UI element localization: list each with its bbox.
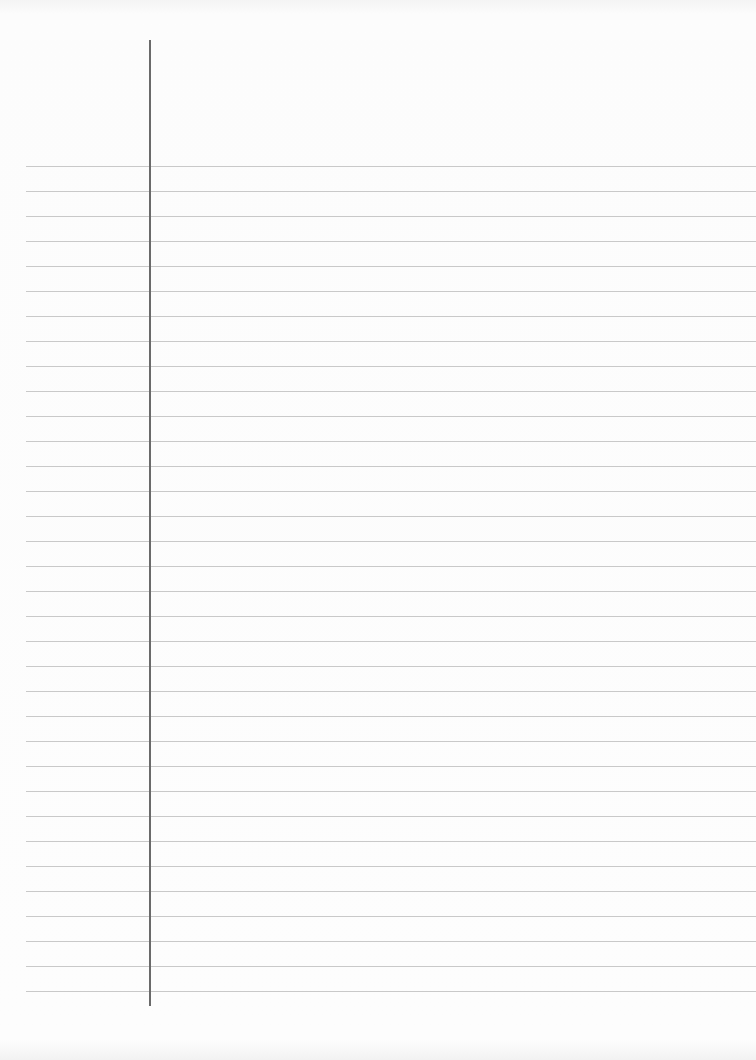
ruled-line [26, 841, 756, 842]
ruled-line [26, 616, 756, 617]
ruled-line [26, 466, 756, 467]
ruled-line [26, 791, 756, 792]
ruled-line [26, 941, 756, 942]
margin-line [149, 40, 151, 1006]
ruled-line [26, 916, 756, 917]
ruled-line [26, 416, 756, 417]
ruled-line [26, 266, 756, 267]
ruled-line [26, 666, 756, 667]
ruled-line [26, 541, 756, 542]
ruled-line [26, 291, 756, 292]
ruled-line [26, 391, 756, 392]
ruled-line [26, 866, 756, 867]
ruled-line [26, 166, 756, 167]
ruled-line [26, 891, 756, 892]
ruled-line [26, 641, 756, 642]
ruled-line [26, 591, 756, 592]
ruled-line [26, 566, 756, 567]
ruled-line [26, 991, 756, 992]
ruled-line [26, 766, 756, 767]
ruled-line [26, 816, 756, 817]
ruled-line [26, 341, 756, 342]
ruled-line [26, 316, 756, 317]
ruled-line [26, 516, 756, 517]
ruled-line [26, 691, 756, 692]
ruled-line [26, 216, 756, 217]
lined-paper-page [0, 0, 756, 1060]
ruled-line [26, 441, 756, 442]
ruled-line [26, 491, 756, 492]
ruled-line [26, 741, 756, 742]
ruled-line [26, 716, 756, 717]
ruled-line [26, 366, 756, 367]
ruled-line [26, 191, 756, 192]
ruled-line [26, 966, 756, 967]
ruled-line [26, 241, 756, 242]
